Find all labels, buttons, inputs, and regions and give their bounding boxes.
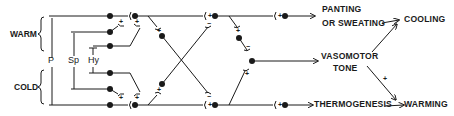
- svg-text:+: +: [236, 27, 240, 34]
- thermoregulation-diagram: +++ +++ ++ ++ ++ −− +− + + WARM COLD P S…: [0, 0, 454, 116]
- svg-text:+: +: [278, 12, 282, 19]
- outcome-warming-label: WARMING: [404, 100, 448, 109]
- svg-text:+: +: [157, 27, 161, 34]
- svg-text:+: +: [119, 18, 123, 25]
- svg-text:−: −: [207, 93, 211, 100]
- svg-text:−: −: [207, 20, 211, 27]
- svg-text:−: −: [246, 43, 250, 50]
- effector-panting-line2: OR SWEATING: [322, 19, 385, 28]
- svg-text:+: +: [119, 94, 123, 101]
- svg-text:+: +: [208, 12, 212, 19]
- effector-panting-line1: PANTING: [322, 5, 361, 14]
- svg-text:+: +: [135, 18, 139, 25]
- receptor-sp-label: Sp: [68, 56, 79, 65]
- svg-text:+: +: [135, 94, 139, 101]
- svg-text:+: +: [383, 75, 387, 82]
- svg-text:+: +: [208, 101, 212, 108]
- input-cold-label: COLD: [14, 83, 38, 92]
- outcome-cooling-label: COOLING: [404, 15, 446, 24]
- effector-vasomotor-line1: VASOMOTOR: [321, 52, 378, 61]
- svg-text:+: +: [245, 70, 249, 77]
- effector-thermogenesis-label: THERMOGENESIS: [314, 100, 392, 109]
- receptor-p-label: P: [48, 56, 54, 65]
- svg-text:+: +: [133, 101, 137, 108]
- svg-text:+: +: [278, 101, 282, 108]
- effector-vasomotor-line2: TONE: [333, 64, 358, 73]
- cold-brace: [38, 70, 44, 104]
- receptor-hy-label: Hy: [88, 56, 99, 65]
- input-warm-label: WARM: [10, 30, 37, 39]
- warm-brace: [38, 17, 44, 51]
- svg-text:+: +: [157, 86, 161, 93]
